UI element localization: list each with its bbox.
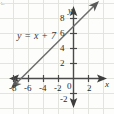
x-tick-label-0: 0 <box>67 82 72 91</box>
x-tick-label-neg6: -6 <box>24 84 32 93</box>
y-tick-label-2: 2 <box>60 59 65 68</box>
grid-lines <box>0 0 114 114</box>
coordinate-plane <box>0 0 114 114</box>
y-tick-label-6: 6 <box>60 29 65 38</box>
x-tick-label-neg2: -2 <box>54 84 62 93</box>
x-tick-label-neg4: -4 <box>39 84 47 93</box>
y-tick-label-8: 8 <box>60 14 65 23</box>
x-tick-label-neg8: -8 <box>9 84 17 93</box>
x-tick-label-2: 2 <box>87 84 92 93</box>
y-axis <box>70 6 78 108</box>
y-axis-name: y <box>68 6 72 15</box>
equation-annotation: y = x + 7 <box>17 30 56 41</box>
graph-figure: b. <box>0 0 114 114</box>
y-tick-label-4: 4 <box>60 44 65 53</box>
y-tick-label-neg2: -2 <box>60 95 68 104</box>
graph-line <box>11 1 99 89</box>
x-axis-name: x <box>105 80 109 89</box>
